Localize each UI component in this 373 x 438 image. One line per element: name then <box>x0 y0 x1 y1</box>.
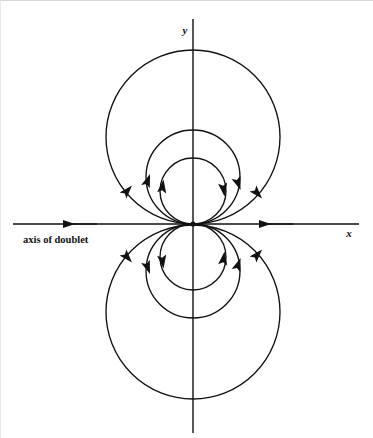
flow-arrow-outer-lower-left <box>120 249 136 265</box>
axes-group <box>13 19 359 433</box>
flow-arrow-inner-lower-right <box>218 251 229 266</box>
y-axis-label: y <box>181 24 188 36</box>
axis-of-doublet-label: axis of doublet <box>23 234 89 245</box>
flow-arrow-outer-upper-left <box>120 182 136 198</box>
flow-arrow-middle-upper-left <box>141 172 154 188</box>
doublet-diagram-svg: y x axis of doublet <box>1 1 373 438</box>
flow-arrow-middle-lower-left <box>141 260 154 276</box>
doublet-origin-point <box>190 221 195 226</box>
x-axis-label: x <box>345 227 352 239</box>
flow-arrow-inner-upper-right <box>218 182 229 197</box>
doublet-streamline-figure: y x axis of doublet <box>0 0 373 438</box>
flow-arrow-inner-lower-left <box>157 254 168 269</box>
flow-arrow-inner-upper-left <box>157 179 168 194</box>
